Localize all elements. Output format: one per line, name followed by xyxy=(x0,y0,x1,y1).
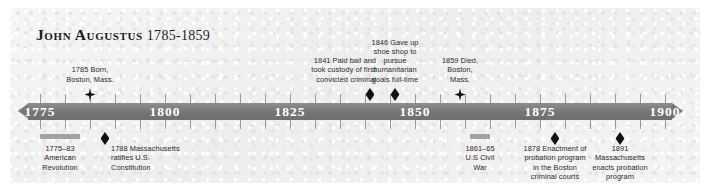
event-span-bar xyxy=(470,134,490,139)
axis-label-1825: 1825 xyxy=(275,104,306,120)
axis-tick xyxy=(190,120,191,129)
axis-tick xyxy=(515,120,516,129)
axis-tick xyxy=(290,120,291,129)
event-label: 1859 Died, Boston, Mass. xyxy=(442,56,478,84)
axis-tick xyxy=(165,120,166,129)
axis-tick xyxy=(340,94,341,103)
axis-label-1775: 1775 xyxy=(25,104,56,120)
event-star-marker-icon xyxy=(455,88,466,101)
axis-tick xyxy=(640,94,641,103)
axis-tick xyxy=(590,120,591,129)
axis-tick xyxy=(615,94,616,103)
axis-tick xyxy=(590,94,591,103)
axis-tick xyxy=(290,94,291,103)
axis-tick xyxy=(490,120,491,129)
axis-tick xyxy=(390,94,391,103)
axis-tick xyxy=(465,94,466,103)
axis-label-1850: 1850 xyxy=(400,104,431,120)
axis-tick xyxy=(340,120,341,129)
axis-tick xyxy=(115,94,116,103)
axis-tick xyxy=(240,94,241,103)
axis-tick xyxy=(140,94,141,103)
timeline-panel: John Augustus 1785-1859 1775180018251850… xyxy=(10,8,700,183)
axis-tick xyxy=(315,120,316,129)
axis-label-1800: 1800 xyxy=(150,104,181,120)
axis-tick xyxy=(540,94,541,103)
axis-tick xyxy=(40,94,41,103)
axis-tick xyxy=(565,94,566,103)
axis-label-1875: 1875 xyxy=(525,104,556,120)
axis-tick xyxy=(640,120,641,129)
axis-tick xyxy=(65,120,66,129)
timeline-axis: 177518001825185018751900 1785 Born, Bost… xyxy=(10,8,700,183)
axis-tick xyxy=(465,120,466,129)
axis-tick xyxy=(165,94,166,103)
axis-tick xyxy=(190,94,191,103)
axis-tick xyxy=(415,120,416,129)
axis-label-1900: 1900 xyxy=(650,104,681,120)
axis-tick xyxy=(90,120,91,129)
event-diamond-marker-icon xyxy=(101,132,110,145)
event-label: 1775–83 American Revolution xyxy=(42,144,77,172)
event-label: 1841 Paid bail and took custody of first… xyxy=(311,56,376,84)
axis-tick xyxy=(240,120,241,129)
event-diamond-marker-icon xyxy=(391,88,400,101)
axis-tick xyxy=(665,94,666,103)
axis-tick xyxy=(540,120,541,129)
event-span-bar xyxy=(40,134,80,139)
axis-tick xyxy=(65,94,66,103)
axis-tick xyxy=(265,94,266,103)
axis-tick xyxy=(265,120,266,129)
event-diamond-marker-icon xyxy=(366,88,375,101)
axis-bar xyxy=(28,103,672,120)
axis-tick xyxy=(365,120,366,129)
axis-tick xyxy=(565,120,566,129)
axis-tick xyxy=(390,120,391,129)
event-label: 1891 Massachusetts enacts probation prog… xyxy=(592,144,647,181)
axis-tick xyxy=(490,94,491,103)
event-label: 1846 Gave up shoe shop to pursue humanit… xyxy=(371,38,418,84)
axis-tick xyxy=(140,120,141,129)
axis-tick xyxy=(440,120,441,129)
axis-tick xyxy=(215,120,216,129)
axis-tick xyxy=(315,94,316,103)
axis-tick xyxy=(615,120,616,129)
axis-tick xyxy=(440,94,441,103)
event-label: 1878 Enactment of probation program in t… xyxy=(524,144,587,181)
event-star-marker-icon xyxy=(85,88,96,101)
axis-tick xyxy=(515,94,516,103)
axis-tick xyxy=(665,120,666,129)
event-label: 1785 Born, Boston, Mass. xyxy=(66,65,113,84)
axis-tick xyxy=(115,120,116,129)
axis-tick xyxy=(215,94,216,103)
axis-tick xyxy=(365,94,366,103)
axis-tick xyxy=(40,120,41,129)
event-label: 1861–65 U.S Civil War xyxy=(465,144,494,172)
axis-tick xyxy=(415,94,416,103)
event-label: 1788 Massachusetts ratifies U.S. Constit… xyxy=(111,144,180,172)
